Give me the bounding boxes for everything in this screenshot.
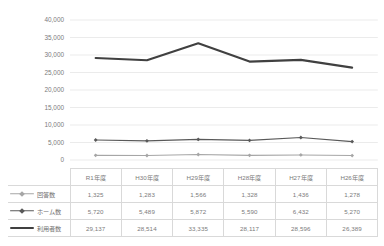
- legend-swatch-icon: [10, 207, 34, 216]
- y-axis-tick-label: 15,000: [44, 104, 64, 111]
- y-axis-tick-label: 5,000: [48, 139, 64, 146]
- table-cell-value: 5,489: [121, 203, 172, 220]
- line-chart-svg: 40,00035,00030,00025,00020,00015,00010,0…: [0, 8, 384, 168]
- table-cell-value: 5,590: [224, 203, 275, 220]
- series-marker: [196, 153, 200, 157]
- table-body: 回答数1,3251,2831,5661,3281,4361,278ホーム数5,7…: [8, 186, 378, 237]
- table-cell-value: 33,335: [173, 220, 224, 237]
- y-axis-tick-label: 10,000: [44, 121, 64, 128]
- legend-cell: ホーム数: [8, 203, 70, 220]
- y-axis-tick-label: 25,000: [44, 69, 64, 76]
- series-marker: [350, 154, 354, 158]
- table-cell-value: 1,436: [275, 186, 326, 203]
- series-marker: [299, 153, 303, 157]
- series-marker: [196, 138, 200, 142]
- table-cell-value: 5,270: [326, 203, 377, 220]
- y-axis-tick-label: 30,000: [44, 51, 64, 58]
- table-cell-value: 5,720: [70, 203, 121, 220]
- series-marker: [248, 153, 252, 157]
- data-table: R1年度 H30年度 H29年度 H28年度 H27年度 H26年度 回答数1,…: [8, 168, 378, 237]
- table-cell-value: 6,432: [275, 203, 326, 220]
- chart-page: 40,00035,00030,00025,00020,00015,00010,0…: [0, 0, 384, 246]
- chart-plot-area: 40,00035,00030,00025,00020,00015,00010,0…: [0, 8, 384, 168]
- column-header: H30年度: [121, 169, 172, 186]
- column-header: H26年度: [326, 169, 377, 186]
- series-marker: [299, 136, 303, 140]
- series-line-ホーム数: [96, 137, 353, 141]
- series-line-利用者数: [96, 43, 353, 67]
- legend-swatch-icon: [10, 190, 34, 199]
- table-row: ホーム数5,7205,4895,8725,5906,4325,270: [8, 203, 378, 220]
- table-cell-value: 29,137: [70, 220, 121, 237]
- legend-cell: 回答数: [8, 186, 70, 203]
- column-header: H29年度: [173, 169, 224, 186]
- table-cell-value: 28,596: [275, 220, 326, 237]
- table-corner-cell: [8, 169, 70, 186]
- series-line-回答数: [96, 155, 353, 156]
- legend-cell: 利用者数: [8, 220, 70, 237]
- table-cell-value: 28,117: [224, 220, 275, 237]
- series-marker: [94, 153, 98, 157]
- y-axis-tick-label: 0: [60, 156, 64, 163]
- column-header: H28年度: [224, 169, 275, 186]
- y-axis-tick-label: 40,000: [44, 16, 64, 23]
- legend-swatch-icon: [10, 224, 34, 233]
- series-marker: [145, 154, 149, 158]
- legend-label: 回答数: [37, 190, 55, 199]
- table-header-row: R1年度 H30年度 H29年度 H28年度 H27年度 H26年度: [8, 169, 378, 186]
- table-cell-value: 1,328: [224, 186, 275, 203]
- table-cell-value: 1,325: [70, 186, 121, 203]
- column-header: H27年度: [275, 169, 326, 186]
- series-marker: [248, 139, 252, 143]
- table-cell-value: 5,872: [173, 203, 224, 220]
- chart-title: [0, 0, 384, 4]
- table-cell-value: 1,278: [326, 186, 377, 203]
- table-row: 回答数1,3251,2831,5661,3281,4361,278: [8, 186, 378, 203]
- table-cell-value: 28,514: [121, 220, 172, 237]
- table-row: 利用者数29,13728,51433,33528,11728,59626,389: [8, 220, 378, 237]
- table-cell-value: 1,566: [173, 186, 224, 203]
- data-table-container: R1年度 H30年度 H29年度 H28年度 H27年度 H26年度 回答数1,…: [8, 168, 378, 237]
- legend-label: ホーム数: [37, 207, 61, 216]
- y-axis-tick-label: 35,000: [44, 34, 64, 41]
- column-header: R1年度: [70, 169, 121, 186]
- table-cell-value: 1,283: [121, 186, 172, 203]
- y-axis-tick-label: 20,000: [44, 86, 64, 93]
- series-marker: [94, 138, 98, 142]
- legend-label: 利用者数: [37, 224, 61, 233]
- table-cell-value: 26,389: [326, 220, 377, 237]
